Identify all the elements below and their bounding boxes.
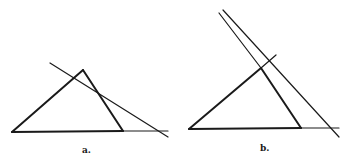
figure-b [189, 10, 339, 137]
figure-a [12, 63, 168, 137]
figure-a-secant-line [50, 63, 168, 137]
figure-b-right-side-extension [219, 13, 261, 68]
figure-a-right-side [83, 70, 123, 131]
figure-b-left-side [189, 68, 261, 129]
geometry-diagram [0, 0, 352, 167]
figure-b-base [189, 128, 301, 129]
figure-b-label: b. [260, 143, 269, 153]
figure-a-base [12, 131, 123, 132]
figure-a-left-side [12, 70, 83, 132]
figure-b-secant-line [223, 10, 339, 137]
figure-a-label: a. [82, 145, 91, 155]
figure-b-right-side [261, 68, 301, 128]
